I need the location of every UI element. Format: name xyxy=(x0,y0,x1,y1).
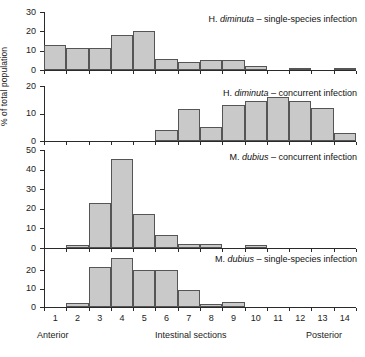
y-axis-tick-label: 10 xyxy=(0,46,36,55)
histogram-bar xyxy=(111,258,133,308)
histogram-bar xyxy=(111,159,133,248)
histogram-bar xyxy=(245,66,267,70)
x-axis-tick-mark xyxy=(133,142,134,145)
x-axis-tick-mark xyxy=(111,308,112,311)
x-axis-tick-mark xyxy=(245,308,246,311)
x-axis-tick-mark xyxy=(334,308,335,311)
panel-title-species: diminuta xyxy=(220,14,257,24)
panel-title: M. dubius – concurrent infection xyxy=(229,152,357,162)
x-axis-tick-mark xyxy=(311,308,312,311)
x-axis-tick-mark xyxy=(155,142,156,145)
x-axis-tick-label: 7 xyxy=(178,314,200,323)
y-axis-tick-label: 20 xyxy=(0,204,36,213)
histogram-panel-2: 01020H. diminuta – concurrent infection xyxy=(0,86,365,141)
x-axis-tick-label: 8 xyxy=(200,314,222,323)
x-axis-tick-label: 2 xyxy=(66,314,88,323)
x-axis-tick-mark xyxy=(111,142,112,145)
y-axis-tick-label: 0 xyxy=(0,303,36,312)
y-axis-tick-label: 20 xyxy=(0,266,36,275)
x-axis-tick-mark xyxy=(66,308,67,311)
x-axis-tick-mark xyxy=(66,142,67,145)
x-axis-tick-label: 12 xyxy=(289,314,311,323)
x-axis-tick-mark xyxy=(289,308,290,311)
panel-title: H. diminuta – concurrent infection xyxy=(223,88,357,98)
histogram-bar xyxy=(89,267,111,307)
x-axis-caption-center: Intestinal sections xyxy=(155,331,227,340)
histogram-bar xyxy=(200,304,222,307)
x-axis-tick-label: 6 xyxy=(156,314,178,323)
x-axis-tick-mark xyxy=(200,142,201,145)
y-axis-tick-label: 20 xyxy=(0,27,36,36)
x-axis-tick-label: 4 xyxy=(111,314,133,323)
x-axis-tick-mark xyxy=(44,142,45,145)
x-axis-tick-label: 13 xyxy=(312,314,334,323)
x-axis-tick-mark xyxy=(178,308,179,311)
panel-title-species: dubius xyxy=(242,152,271,162)
histogram-bar xyxy=(89,203,111,248)
x-axis-tick-mark xyxy=(66,71,67,74)
x-axis-tick-mark xyxy=(356,308,357,311)
x-axis-tick-mark xyxy=(356,71,357,74)
histogram-bar xyxy=(200,244,222,248)
y-axis-tick-label: 40 xyxy=(0,165,36,174)
x-axis-tick-mark xyxy=(44,71,45,74)
x-axis-tick-mark xyxy=(155,71,156,74)
histogram-bar xyxy=(133,214,155,248)
histogram-bar xyxy=(289,68,311,70)
x-axis-tick-label: 1 xyxy=(44,314,66,323)
x-axis-tick-mark xyxy=(222,142,223,145)
histogram-bar xyxy=(66,245,88,248)
y-axis-tick-label: 10 xyxy=(0,284,36,293)
x-axis-tick-mark xyxy=(356,142,357,145)
panel-title-condition: – single-species infection xyxy=(256,14,357,24)
histogram-bar xyxy=(222,302,244,307)
panel-title-species: diminuta xyxy=(234,88,271,98)
histogram-bar xyxy=(222,105,244,141)
y-axis-tick-label: 30 xyxy=(0,185,36,194)
x-axis-tick-mark xyxy=(334,142,335,145)
x-axis-tick-mark xyxy=(178,71,179,74)
histogram-bar xyxy=(66,48,88,70)
x-axis-caption-anterior: Anterior xyxy=(37,331,69,340)
x-axis-tick-mark xyxy=(245,71,246,74)
x-axis-tick-mark xyxy=(200,71,201,74)
x-axis-tick-mark xyxy=(155,308,156,311)
histogram-bar xyxy=(200,60,222,70)
x-axis-tick-label: 14 xyxy=(334,314,356,323)
x-axis-tick-mark xyxy=(133,308,134,311)
y-axis-tick-label: 10 xyxy=(0,109,36,118)
histogram-bar xyxy=(66,303,88,307)
x-axis-tick-label: 5 xyxy=(133,314,155,323)
x-axis-tick-mark xyxy=(200,308,201,311)
x-axis-tick-mark xyxy=(245,142,246,145)
x-axis-tick-mark xyxy=(222,308,223,311)
x-axis-tick-mark xyxy=(289,142,290,145)
histogram-bar xyxy=(289,101,311,141)
x-axis-tick-mark xyxy=(334,71,335,74)
panel-title-condition: – concurrent infection xyxy=(271,88,357,98)
panel-title-genus: H. xyxy=(208,14,220,24)
panel-title-condition: – concurrent infection xyxy=(271,152,357,162)
y-axis-tick-label: 0 xyxy=(0,66,36,75)
x-axis-tick-label: 3 xyxy=(89,314,111,323)
histogram-panel-1: 0102030H. diminuta – single-species infe… xyxy=(0,12,365,70)
histogram-bar xyxy=(311,108,333,141)
histogram-bar xyxy=(178,109,200,141)
histogram-bar xyxy=(155,59,177,70)
x-axis-tick-mark xyxy=(44,308,45,311)
histogram-bar xyxy=(155,270,177,307)
histogram-bar xyxy=(267,97,289,141)
x-axis-tick-mark xyxy=(89,308,90,311)
panel-title-species: dubius xyxy=(227,254,256,264)
panel-title-condition: – single-species infection xyxy=(256,254,357,264)
x-axis-tick-mark xyxy=(178,142,179,145)
x-axis-caption-posterior: Posterior xyxy=(306,331,342,340)
panel-title-genus: M. xyxy=(229,152,242,162)
x-axis-tick-mark xyxy=(111,71,112,74)
histogram-bar xyxy=(178,62,200,70)
x-axis-tick-mark xyxy=(267,71,268,74)
x-axis-tick-label: 10 xyxy=(245,314,267,323)
histogram-bar xyxy=(133,31,155,70)
panel-title: H. diminuta – single-species infection xyxy=(208,14,357,24)
x-axis-tick-mark xyxy=(133,71,134,74)
